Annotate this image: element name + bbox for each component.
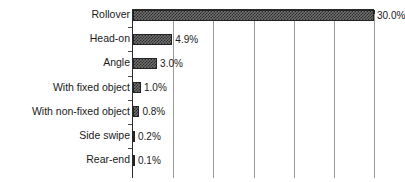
gridline-20 [294, 10, 295, 178]
category-label-2: Angle [103, 57, 130, 68]
category-tick-3 [128, 100, 132, 101]
bar-value-0: 30.0% [377, 10, 405, 21]
category-tick-4 [128, 124, 132, 125]
bar-value-3: 1.0% [144, 82, 167, 93]
category-label-0: Rollover [91, 9, 130, 20]
category-tick-1 [128, 51, 132, 52]
bar-1 [133, 34, 172, 45]
bar-0 [133, 10, 374, 21]
bar-value-5: 0.2% [138, 131, 161, 142]
bar-3 [133, 82, 141, 93]
category-tick-0 [128, 27, 132, 28]
bar-value-4: 0.8% [142, 106, 165, 117]
bar-2 [133, 58, 157, 69]
category-label-1: Head-on [90, 33, 130, 44]
category-label-5: Side swipe [79, 130, 130, 141]
gridline-25 [334, 10, 335, 178]
bar-value-1: 4.9% [175, 34, 198, 45]
gridline-5 [173, 10, 174, 178]
category-label-3: With fixed object [53, 82, 130, 93]
bar-6 [133, 155, 135, 166]
category-tick-2 [128, 76, 132, 77]
bar-5 [133, 131, 135, 142]
category-label-4: With non-fixed object [32, 106, 130, 117]
gridline-15 [254, 10, 255, 178]
category-tick-5 [128, 148, 132, 149]
gridline-30 [374, 10, 375, 178]
bar-4 [133, 106, 139, 117]
gridline-10 [213, 10, 214, 178]
bar-value-6: 0.1% [138, 155, 161, 166]
top-axis-tick-30 [374, 10, 375, 14]
category-label-6: Rear-end [86, 154, 130, 165]
bar-value-2: 3.0% [160, 58, 183, 69]
